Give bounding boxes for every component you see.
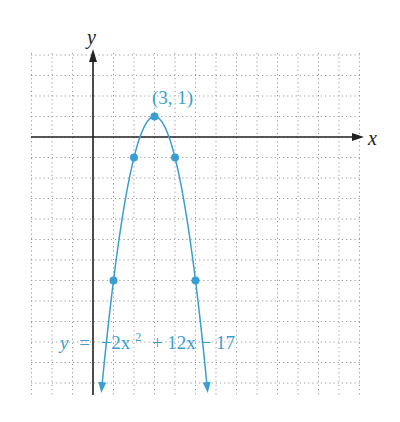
vertex-label: (3, 1) xyxy=(152,87,193,109)
data-points xyxy=(110,113,200,285)
equation-label: y = −2x 2 + 12x − 17 xyxy=(58,324,235,353)
parabola-chart: x y (3, 1) y = −2x 2 + 12x − 17 xyxy=(0,0,400,422)
data-point xyxy=(130,154,138,162)
data-point xyxy=(151,113,159,121)
equation-term1: −2x xyxy=(101,332,131,353)
data-point xyxy=(171,154,179,162)
data-point xyxy=(110,277,118,285)
equation-eq: = xyxy=(79,332,90,353)
curve-arrow-icon xyxy=(98,382,106,393)
equation-lhs: y xyxy=(58,332,69,353)
x-axis-label: x xyxy=(367,127,377,149)
equation-exponent: 2 xyxy=(135,330,141,344)
y-axis-label: y xyxy=(85,26,96,49)
curve-arrow-icon xyxy=(203,382,211,393)
equation-term2: + 12x − 17 xyxy=(152,332,235,353)
x-axis-arrow-icon xyxy=(352,133,364,141)
data-point xyxy=(192,277,200,285)
